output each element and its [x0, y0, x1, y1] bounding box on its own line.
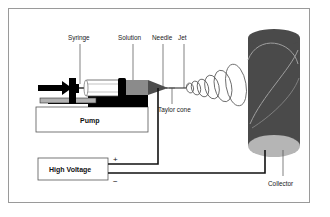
label-collector: Collector — [268, 180, 294, 187]
label-syringe: Syringe — [68, 34, 90, 42]
terminal-minus: − — [113, 177, 118, 186]
solution-region — [126, 80, 148, 95]
pump-label: Pump — [80, 117, 99, 125]
drive-arrow-icon — [38, 81, 72, 95]
label-needle: Needle — [152, 34, 173, 41]
label-solution: Solution — [118, 34, 142, 41]
collector-drum-icon — [248, 29, 300, 157]
plunger-carriage — [69, 78, 76, 104]
high-voltage-label: High Voltage — [49, 166, 91, 174]
label-jet: Jet — [178, 34, 187, 41]
taylor-cone-marker — [169, 88, 175, 104]
diagram-canvas: Syringe Solution Needle Jet Pump — [0, 0, 330, 217]
label-taylor-cone: Taylor cone — [158, 106, 191, 114]
pump-box: Pump — [36, 107, 148, 132]
terminal-plus: + — [113, 155, 118, 164]
lead-screw-hatch — [40, 98, 96, 103]
whipping-jet-icon — [185, 63, 249, 108]
electrospinning-figure: Syringe Solution Needle Jet Pump — [0, 0, 330, 217]
syringe-collar — [118, 78, 126, 98]
negative-wire — [108, 150, 265, 173]
high-voltage-box: High Voltage — [38, 158, 108, 180]
